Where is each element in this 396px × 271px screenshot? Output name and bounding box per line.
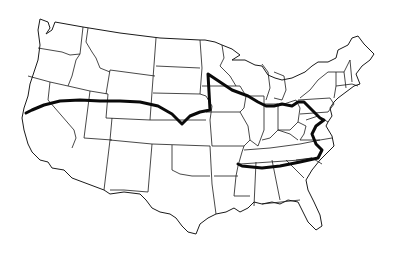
us-outline — [22, 19, 374, 234]
us-map — [0, 0, 396, 271]
